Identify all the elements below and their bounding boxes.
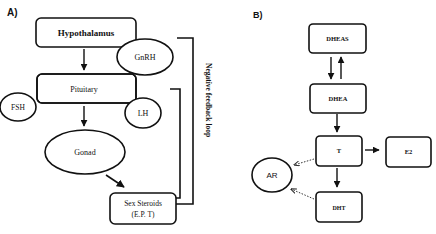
lh-node: LH [125,98,161,128]
arrow-dht-to-ar [291,189,314,199]
fsh-label: FSH [11,103,25,112]
arrow-gonad-to-sex-steroids [106,175,124,187]
panel-a: A) Hypothalamus GnRH Pituitary FSH LH [0,7,213,224]
e2-label: E2 [405,148,413,155]
dheas-label: DHEAS [326,35,349,42]
feedback-bracket-inner [170,89,180,198]
diagram-canvas: A) Hypothalamus GnRH Pituitary FSH LH [0,0,436,234]
dhea-label: DHEA [329,95,348,102]
gnrh-label: GnRH [135,53,156,62]
hypothalamus-label: Hypothalamus [58,28,115,38]
e2-node: E2 [386,137,431,167]
gnrh-node: GnRH [117,39,173,75]
ar-node: AR [252,158,292,192]
dheas-node: DHEAS [309,24,366,53]
sex-steroids-label-line2: (E.P. T) [132,210,155,219]
panel-b: B) DHEAS DHEA T E2 [252,10,431,222]
panel-a-label: A) [7,7,18,18]
panel-b-label: B) [253,10,263,20]
arrow-t-to-ar [294,159,314,165]
dht-node: DHT [316,192,362,222]
feedback-bracket-outer [176,38,193,204]
t-label: T [337,147,342,154]
pituitary-node: Pituitary [37,74,136,103]
pituitary-label: Pituitary [70,85,98,94]
gonad-label: Gonad [74,148,95,157]
sex-steroids-node: Sex Steroids (E.P. T) [110,193,176,224]
fsh-node: FSH [0,93,36,121]
gonad-node: Gonad [45,130,125,174]
dhea-node: DHEA [310,84,366,113]
ar-label: AR [266,171,277,180]
lh-label: LH [138,109,149,118]
dht-label: DHT [332,205,345,211]
hypothalamus-node: Hypothalamus [36,18,136,47]
sex-steroids-label-line1: Sex Steroids [124,199,162,208]
negative-feedback-loop-label: Negative feedback loop [204,63,213,137]
diagram-figure: A) Hypothalamus GnRH Pituitary FSH LH [0,0,436,234]
t-node: T [316,136,362,166]
